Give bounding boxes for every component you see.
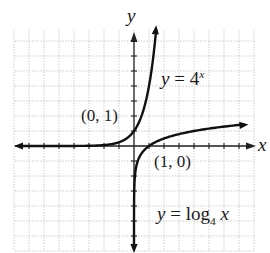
log-curve-arrow-right-icon: [239, 122, 248, 129]
log-function-label: y = log4 x: [157, 204, 229, 227]
x-axis-label: x: [258, 135, 266, 154]
exp-function-label: y = 4x: [161, 69, 204, 88]
point-label-1-0: (1, 0): [154, 153, 191, 170]
x-axis-arrow-icon: [246, 143, 256, 150]
exp-curve-arrow-up-icon: [152, 25, 159, 34]
log-curve-arrow-down-icon: [130, 244, 137, 253]
log-arg: x: [220, 203, 228, 224]
exp-curve-arrow-left-icon: [14, 142, 23, 149]
y-axis-label: y: [127, 6, 135, 25]
log-eq: = log: [165, 203, 210, 224]
graph-plot: [0, 0, 270, 253]
exp-superscript: x: [199, 68, 204, 80]
log-subscript: 4: [210, 215, 216, 227]
exp-eq: = 4: [169, 68, 199, 89]
log-curve: [134, 124, 244, 248]
point-label-0-1: (0, 1): [81, 107, 118, 124]
